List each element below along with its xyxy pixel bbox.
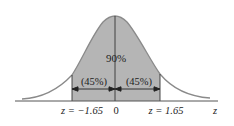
tick-label-center: 0 <box>113 105 118 116</box>
left-half-label: (45%) <box>81 76 108 88</box>
tick-label-left: z = −1.65 <box>60 105 103 116</box>
center-percent-label: 90% <box>106 52 126 64</box>
axis-name-label: z <box>212 105 217 116</box>
right-half-label: (45%) <box>126 76 153 88</box>
normal-curve-diagram: 90% (45%) (45%) z = −1.65 0 z = 1.65 z <box>0 0 234 126</box>
tick-label-right: z = 1.65 <box>148 105 184 116</box>
